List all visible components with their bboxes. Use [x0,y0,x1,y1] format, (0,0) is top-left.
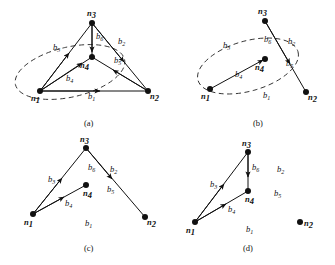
branch-label-a-b4: b4 [66,73,73,84]
branch-label-d-b4: b4 [228,204,235,215]
node-label-c-n2: n2 [147,217,157,229]
arrow-a-b4 [40,63,82,91]
node-label-c-n3: n3 [80,134,90,146]
branch-label-c-b3: b3 [48,174,55,185]
node-label-b-n3: n3 [258,6,268,18]
panel-caption-c: (c) [84,243,94,253]
branch-label-d-b1: b1 [246,224,253,235]
node-b-n4 [262,56,268,62]
branch-label-d-b5: b5 [274,188,281,199]
node-label-b-n1: n1 [201,91,210,103]
arrow-a-b3 [40,53,69,91]
branch-label-c-b2: b2 [110,164,117,175]
panel-caption-b: (b) [253,118,263,128]
branch-label-a-b2: b2 [118,36,125,47]
node-c-n1 [30,211,36,217]
branch-label-b-b2: b2 [288,36,295,47]
figure-svg: n3 n1 n2 n4 b1 b2 b3 b4 b5 b6 (a) n3 n1 … [0,0,335,265]
branch-label-c-b5: b5 [107,184,114,195]
node-label-b-n4: n4 [255,62,264,74]
branch-label-a-b3: b3 [53,42,60,53]
branch-label-b-b5: b5 [286,58,293,69]
node-label-a-n4: n4 [80,60,89,72]
branch-label-c-b6: b6 [88,162,95,173]
node-a-n3 [89,20,95,26]
node-d-n1 [192,219,198,225]
node-label-c-n4: n4 [83,188,92,200]
panel-b: n3 n1 n2 n4 b1 b2 b3 b4 b5 b6 (b) [191,6,318,128]
node-label-d-n4: n4 [245,194,254,206]
node-label-a-n1: n1 [31,93,40,105]
branch-label-b-b6: b6 [264,34,271,45]
node-b-n3 [262,18,268,24]
branch-label-a-b6: b6 [96,31,103,42]
branch-label-d-b6: b6 [252,162,259,173]
node-label-a-n2: n2 [150,91,160,103]
branch-label-b-b4: b4 [235,69,242,80]
branch-label-d-b3: b3 [210,179,217,190]
branch-label-b-b1: b1 [263,90,270,101]
figure-graph-panels: n3 n1 n2 n4 b1 b2 b3 b4 b5 b6 (a) n3 n1 … [0,0,335,265]
node-b-n1 [207,86,213,92]
cutset-ellipse-a [10,35,130,109]
node-label-d-n1: n1 [186,225,195,237]
panel-a: n3 n1 n2 n4 b1 b2 b3 b4 b5 b6 (a) [10,8,160,128]
node-label-c-n1: n1 [24,217,33,229]
node-label-a-n3: n3 [87,8,97,20]
node-label-b-n2: n2 [308,92,318,104]
panel-d: n3 n1 n2 n4 b1 b2 b3 b4 b5 b6 (d) [186,138,314,253]
node-label-d-n2: n2 [304,218,314,230]
node-label-d-n3: n3 [242,138,252,150]
branch-label-c-b1: b1 [85,218,92,229]
branch-label-a-b1: b1 [88,91,95,102]
node-a-n4 [89,54,95,60]
arrow-d-b4 [195,204,226,222]
node-a-n1 [37,88,43,94]
branch-label-d-b2: b2 [277,164,284,175]
arrow-a-b5 [113,70,148,91]
panel-c: n3 n1 n2 n4 b1 b2 b3 b4 b5 b6 (c) [24,134,157,253]
panel-caption-d: (d) [243,243,253,253]
arrow-c-b4 [33,197,64,214]
panel-caption-a: (a) [84,118,94,128]
arrow-d-b3 [195,184,224,222]
branch-label-c-b4: b4 [65,198,72,209]
branch-label-b-b3: b3 [223,40,230,51]
node-d-n2 [297,219,303,225]
